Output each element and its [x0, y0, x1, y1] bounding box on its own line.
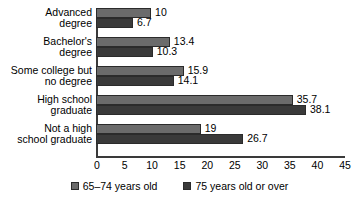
bar-value-label: 19 [205, 123, 217, 134]
value-axis-tick-label: 20 [201, 159, 213, 171]
bar-value-label: 6.7 [137, 17, 152, 28]
bar [96, 76, 174, 86]
category-label: Advanceddegree [0, 7, 92, 29]
legend-swatch-icon [183, 182, 191, 190]
bars-layer: 106.713.410.315.914.135.738.11926.7 [96, 8, 346, 156]
legend-label: 75 years old or over [195, 180, 288, 192]
category-label: Not a highschool graduate [0, 123, 92, 145]
category-label-line: no degree [0, 76, 92, 87]
value-axis-tick-label: 15 [174, 159, 186, 171]
chart-legend: 65–74 years old75 years old or over [0, 180, 359, 192]
plot-area: AdvanceddegreeBachelor'sdegreeSome colle… [0, 0, 359, 176]
legend-swatch-icon [71, 182, 79, 190]
value-axis-tick-label: 35 [284, 159, 296, 171]
bar [96, 66, 184, 76]
legend-label: 65–74 years old [83, 180, 158, 192]
bar-chart: AdvanceddegreeBachelor'sdegreeSome colle… [0, 0, 359, 202]
category-label-line: degree [0, 47, 92, 58]
bar-value-label: 38.1 [310, 104, 330, 115]
bar [96, 95, 293, 105]
category-label-line: school graduate [0, 134, 92, 145]
category-label: High schoolgraduate [0, 94, 92, 116]
value-axis-tick-label: 5 [122, 159, 128, 171]
bar-group: 15.914.1 [96, 66, 346, 88]
bar-value-label: 26.7 [247, 133, 267, 144]
bar-group: 13.410.3 [96, 37, 346, 59]
bar [96, 134, 243, 144]
bar-group: 35.738.1 [96, 95, 346, 117]
value-axis-tick-label: 45 [339, 159, 351, 171]
category-axis-line [96, 156, 345, 158]
bar [96, 124, 201, 134]
legend-item[interactable]: 65–74 years old [71, 180, 158, 192]
bar-value-label: 10 [155, 7, 167, 18]
bar [96, 18, 133, 28]
value-axis-tick-labels: 051015202530354045 [96, 159, 346, 173]
value-axis-tick-label: 25 [229, 159, 241, 171]
bar-value-label: 10.3 [157, 46, 177, 57]
value-axis-tick-label: 0 [94, 159, 100, 171]
category-label-line: degree [0, 18, 92, 29]
bar-group: 106.7 [96, 8, 346, 30]
bar-value-label: 14.1 [178, 75, 198, 86]
bar [96, 47, 153, 57]
legend-item[interactable]: 75 years old or over [183, 180, 288, 192]
bar-group: 1926.7 [96, 124, 346, 146]
value-axis-tick-label: 30 [256, 159, 268, 171]
value-axis-tick-label: 40 [312, 159, 324, 171]
category-label: Some college butno degree [0, 65, 92, 87]
value-axis-tick-label: 10 [146, 159, 158, 171]
category-label: Bachelor'sdegree [0, 36, 92, 58]
category-label-line: graduate [0, 105, 92, 116]
bar [96, 105, 306, 115]
